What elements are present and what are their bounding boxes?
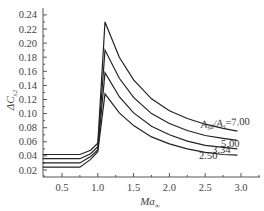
y-tick-label: 0.18 [19,52,37,63]
series-labels: Asd/As=7.005.003.342.50 [199,116,250,161]
series-label-2.50: 2.50 [199,150,217,161]
ticks: 0.020.040.060.080.100.120.140.160.180.20… [19,9,259,193]
y-tick-label: 0.06 [19,136,37,147]
x-tick-label: 1.0 [91,182,104,193]
y-tick-label: 0.10 [19,108,37,119]
x-tick-label: 0.5 [55,182,68,193]
x-axis-title: Ma∞ [139,195,160,210]
x-tick-label: 3.0 [234,182,247,193]
line-chart: 0.020.040.060.080.100.120.140.160.180.20… [0,0,264,211]
y-tick-label: 0.08 [19,122,37,133]
x-tick-label: 1.5 [127,182,140,193]
x-tick-label: 2.5 [199,182,212,193]
y-tick-label: 0.04 [19,150,38,161]
series-label-7.00: Asd/As=7.00 [199,116,250,132]
series-line-0 [43,22,238,155]
y-tick-label: 0.12 [19,94,37,105]
x-tick-label: 2.0 [163,182,176,193]
series-line-1 [43,50,238,159]
y-tick-label: 0.22 [19,24,37,35]
y-tick-label: 0.16 [19,66,37,77]
y-tick-label: 0.02 [19,165,37,176]
y-tick-label: 0.24 [19,9,38,20]
curves [43,22,238,167]
y-tick-label: 0.14 [19,80,38,91]
y-tick-label: 0.20 [19,38,37,49]
y-axis-title: ΔCx2 [4,89,19,111]
